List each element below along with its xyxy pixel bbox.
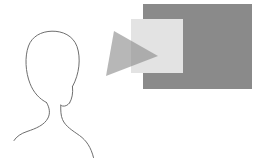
illustration-canvas: Viewer facing display [0, 0, 257, 158]
head-outline [26, 31, 79, 102]
left-neck-outline [14, 103, 49, 141]
head-and-shoulders-outline [14, 31, 94, 157]
right-neck-outline [61, 103, 70, 106]
chin-and-jaw-outline [70, 87, 73, 104]
scene-svg [0, 0, 257, 158]
right-neck-inner-outline [61, 105, 94, 157]
